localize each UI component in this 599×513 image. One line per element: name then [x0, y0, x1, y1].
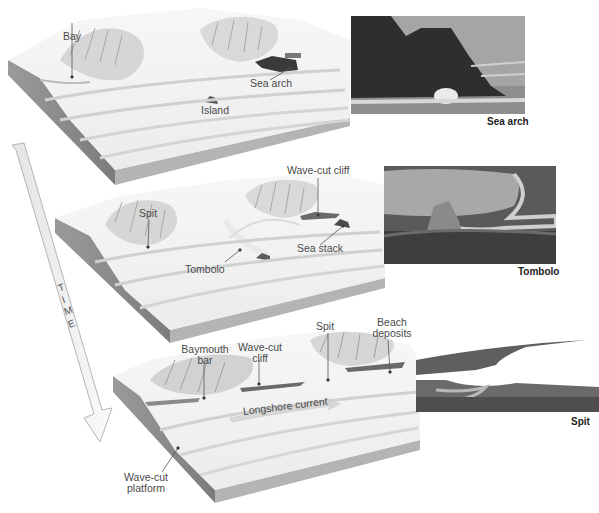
label-wave-cut-cliff: Wave-cut cliff [287, 165, 349, 176]
label-spit: Spit [139, 208, 157, 219]
label-beach-deposits-line2: deposits [372, 327, 411, 339]
photo-spit [416, 335, 599, 412]
label-wave-cut-platform: Wave-cut platform [118, 472, 174, 494]
caption-sea-arch: Sea arch [487, 116, 529, 127]
label-spit-3: Spit [316, 321, 334, 332]
label-wave-cut-cliff-3-line2: cliff [252, 352, 268, 364]
label-island: Island [201, 105, 229, 116]
label-baymouth-bar-line2: bar [197, 354, 212, 366]
block-stage-1 [8, 8, 350, 185]
photo-sea-arch [351, 16, 525, 114]
photo-tombolo [384, 166, 556, 264]
label-beach-deposits: Beach deposits [370, 317, 414, 339]
label-sea-arch: Sea arch [250, 78, 292, 89]
label-bay: Bay [63, 31, 81, 42]
caption-tombolo: Tombolo [518, 266, 559, 277]
block-stage-2 [55, 172, 385, 343]
coastline-evolution-diagram: T I M E Bay Sea arch Island Wave-cut cli… [0, 0, 599, 513]
label-wave-cut-platform-line2: platform [127, 482, 165, 494]
label-tombolo: Tombolo [185, 264, 225, 275]
label-wave-cut-cliff-3: Wave-cut cliff [237, 342, 283, 364]
label-sea-stack: Sea stack [297, 243, 343, 254]
label-baymouth-bar: Baymouth bar [178, 344, 232, 366]
caption-spit: Spit [571, 416, 590, 427]
